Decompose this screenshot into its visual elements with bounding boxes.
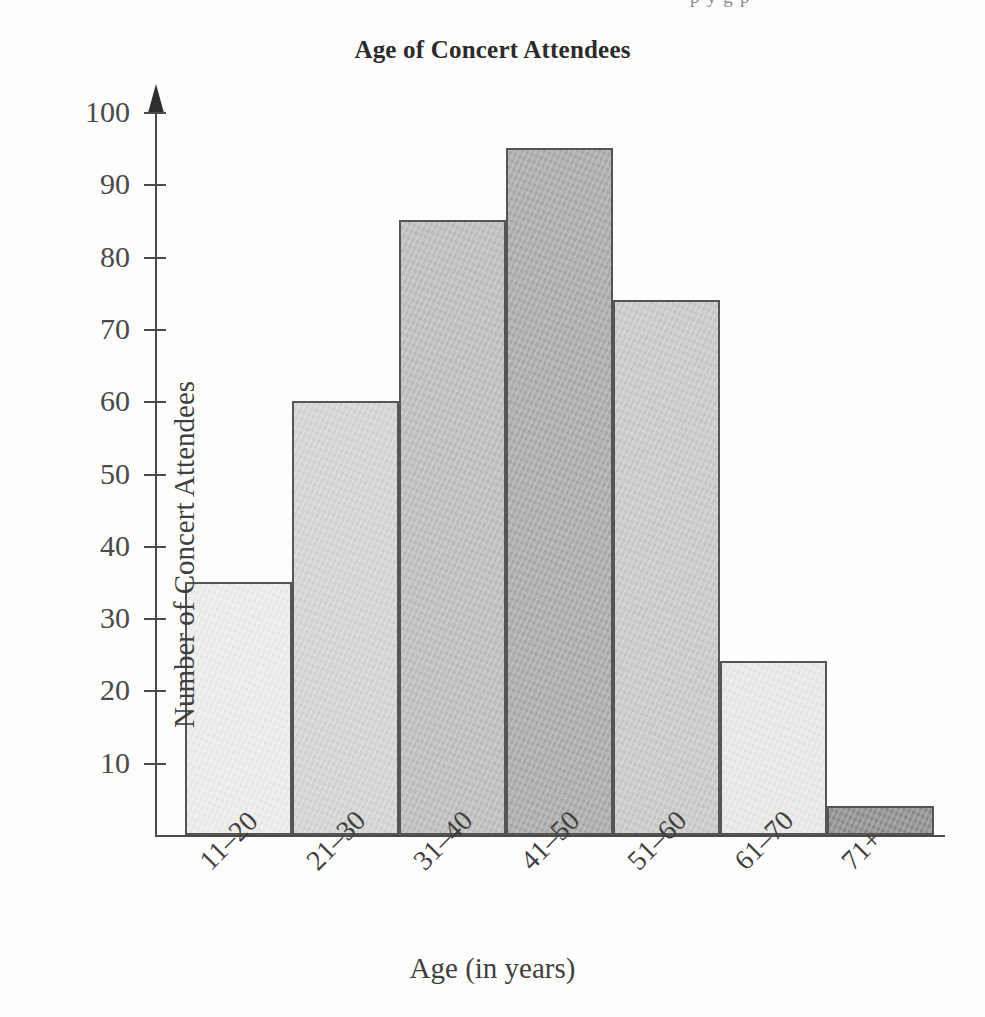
y-axis-tick: 10 <box>144 763 166 765</box>
bar <box>185 582 292 835</box>
bar-texture <box>187 584 290 833</box>
y-axis-tick-label: 70 <box>100 312 130 346</box>
bar <box>613 300 720 835</box>
y-axis-tick-label: 50 <box>100 457 130 491</box>
y-axis-tick-label: 80 <box>100 240 130 274</box>
plot-area: 102030405060708090100 11–2021–3031–4041–… <box>155 112 945 835</box>
x-axis-title: Age (in years) <box>0 952 985 985</box>
y-axis-tick-label: 10 <box>100 746 130 780</box>
bar-texture <box>294 403 397 833</box>
y-axis-tick-label: 100 <box>85 95 130 129</box>
y-axis-tick: 60 <box>144 401 166 403</box>
y-axis-tick: 90 <box>144 184 166 186</box>
chart-title: Age of Concert Attendees <box>0 36 985 64</box>
y-axis-title: Number of Concert Attendees <box>168 215 201 895</box>
y-axis-tick: 80 <box>144 257 166 259</box>
bar-texture <box>508 150 611 833</box>
y-axis-tick-label: 60 <box>100 384 130 418</box>
y-axis-tick: 30 <box>144 618 166 620</box>
cropped-text-glyphs: p y g p <box>690 0 980 8</box>
bar-texture <box>401 222 504 833</box>
bar <box>506 148 613 835</box>
y-axis-tick-label: 40 <box>100 529 130 563</box>
y-axis-tick-label: 30 <box>100 601 130 635</box>
y-axis-tick: 20 <box>144 690 166 692</box>
bar <box>292 401 399 835</box>
y-axis-tick: 100 <box>144 112 166 114</box>
bar-texture <box>615 302 718 833</box>
bar <box>399 220 506 835</box>
y-axis-tick: 70 <box>144 329 166 331</box>
y-axis-tick-label: 20 <box>100 673 130 707</box>
y-axis-arrow-icon <box>148 84 164 113</box>
cropped-text-above-figure: p y g p <box>690 0 980 10</box>
bar <box>827 806 934 835</box>
y-axis-tick: 40 <box>144 546 166 548</box>
y-axis-tick: 50 <box>144 474 166 476</box>
chart-page: p y g p Age of Concert Attendees 1020304… <box>0 0 985 1017</box>
bar-texture <box>829 808 932 833</box>
y-axis-tick-label: 90 <box>100 167 130 201</box>
